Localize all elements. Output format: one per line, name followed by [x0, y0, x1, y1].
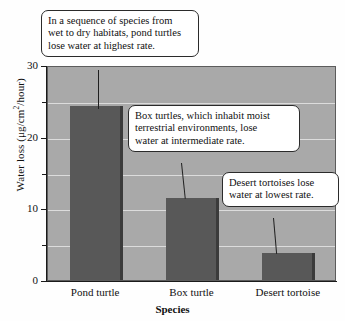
- x-axis-title: Species: [0, 303, 345, 315]
- pond-turtle-callout: In a sequence of species from wet to dry…: [41, 10, 199, 57]
- y-axis-tick: [41, 66, 46, 67]
- y-axis-minor-tick: [42, 245, 46, 246]
- y-axis-tick: [41, 281, 46, 282]
- bar-pond-turtle: [70, 106, 123, 280]
- desert-tortoise-callout: Desert tortoises lose water at lowest ra…: [222, 172, 339, 207]
- y-axis-line: [46, 66, 47, 282]
- leader-line-pond-turtle: [98, 70, 99, 109]
- y-axis-tick: [41, 138, 46, 139]
- y-axis-title-superscript: 2: [12, 106, 21, 110]
- y-axis-title: Water loss (μg/cm2/hour): [12, 30, 26, 240]
- callout-line: In a sequence of species from: [48, 15, 192, 27]
- callout-line: water at intermediate rate.: [135, 135, 293, 147]
- y-axis-title-suffix: /hour): [14, 78, 26, 105]
- callout-line: Box turtles, which inhabit moist: [135, 110, 293, 122]
- x-axis-line: [46, 281, 337, 282]
- bar-desert-tortoise: [262, 253, 315, 280]
- x-axis-tick-label: Box turtle: [137, 286, 247, 298]
- box-turtle-callout: Box turtles, which inhabit moist terrest…: [128, 105, 300, 152]
- y-axis-tick: [41, 209, 46, 210]
- callout-line: Desert tortoises lose: [229, 177, 332, 189]
- callout-line: terrestrial environments, lose: [135, 122, 293, 134]
- y-axis-minor-tick: [42, 174, 46, 175]
- bar-chart-figure: 0102030 Water loss (μg/cm2/hour) Pond tu…: [0, 0, 345, 321]
- x-axis-tick-label: Desert tortoise: [233, 286, 343, 298]
- y-axis-tick-label: 0: [12, 275, 38, 286]
- y-axis-minor-tick: [42, 102, 46, 103]
- callout-line: lose water at highest rate.: [48, 40, 192, 52]
- callout-line: wet to dry habitats, pond turtles: [48, 27, 192, 39]
- callout-line: water at lowest rate.: [229, 189, 332, 201]
- bar-box-turtle: [166, 198, 219, 280]
- gridline: [48, 103, 335, 104]
- x-axis-tick-label: Pond turtle: [40, 286, 150, 298]
- y-axis-title-prefix: Water loss (μg/cm: [14, 110, 26, 192]
